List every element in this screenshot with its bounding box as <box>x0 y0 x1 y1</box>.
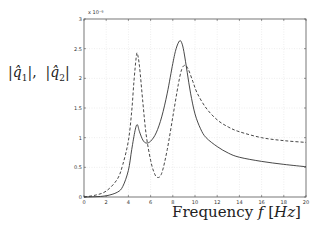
svg-text:0.5: 0.5 <box>74 164 82 170</box>
y-axis-multiplier: x 10⁻⁶ <box>88 9 104 15</box>
x-axis-label: Frequency f [Hz] <box>172 203 301 221</box>
svg-text:2: 2 <box>105 199 108 205</box>
svg-text:0: 0 <box>82 199 85 205</box>
svg-text:1: 1 <box>79 135 82 141</box>
frequency-response-chart: 0246810121416182000.511.522.53 <box>0 0 321 230</box>
axis-ticks: 0246810121416182000.511.522.53 <box>74 16 309 205</box>
svg-text:1.5: 1.5 <box>74 105 82 111</box>
grid-lines <box>84 19 306 197</box>
svg-text:2.5: 2.5 <box>74 46 82 52</box>
x-axis-label-text: Frequency <box>172 203 253 221</box>
svg-text:4: 4 <box>127 199 130 205</box>
svg-text:2: 2 <box>79 75 82 81</box>
svg-text:0: 0 <box>79 194 82 200</box>
svg-text:3: 3 <box>79 16 82 22</box>
y-axis-label: |q̂1|, |q̂2| <box>8 64 70 83</box>
svg-text:20: 20 <box>303 199 309 205</box>
svg-text:6: 6 <box>149 199 152 205</box>
